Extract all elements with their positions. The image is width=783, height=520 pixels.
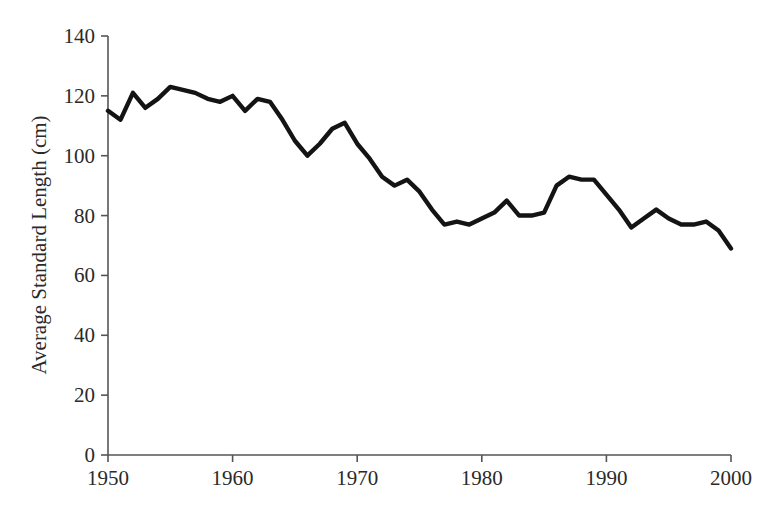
y-tick-label-120: 120 xyxy=(64,84,96,108)
x-tick-label-2000: 2000 xyxy=(710,466,752,490)
y-tick-label-40: 40 xyxy=(74,323,95,347)
y-axis-title: Average Standard Length (cm) xyxy=(27,115,51,374)
chart-container: 020406080100120140 195019601970198019902… xyxy=(0,0,783,520)
x-tick-label-1950: 1950 xyxy=(87,466,129,490)
y-tick-label-80: 80 xyxy=(74,204,95,228)
x-tick-label-1970: 1970 xyxy=(336,466,378,490)
line-chart: 020406080100120140 195019601970198019902… xyxy=(0,0,783,520)
x-tick-label-1990: 1990 xyxy=(585,466,627,490)
y-tick-label-100: 100 xyxy=(64,144,96,168)
y-tick-label-20: 20 xyxy=(74,383,95,407)
x-tick-label-1960: 1960 xyxy=(212,466,254,490)
x-tick-label-1980: 1980 xyxy=(461,466,503,490)
y-tick-label-0: 0 xyxy=(85,443,96,467)
y-tick-label-60: 60 xyxy=(74,263,95,287)
y-tick-label-140: 140 xyxy=(64,24,96,48)
chart-background xyxy=(0,0,783,520)
